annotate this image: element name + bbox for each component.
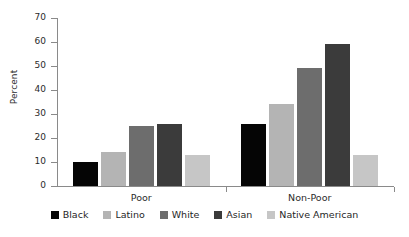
- legend-label: Native American: [279, 210, 358, 220]
- bars-container: [57, 18, 394, 186]
- legend-swatch-icon: [214, 211, 222, 219]
- bar-chart: Percent 010203040506070 PoorNon-Poor Bla…: [0, 0, 409, 237]
- legend-item: Native American: [267, 210, 358, 220]
- y-axis-tick-label: 30: [6, 109, 46, 118]
- bar: [157, 124, 182, 186]
- y-axis-tick-label: 20: [6, 133, 46, 142]
- bar: [185, 155, 210, 186]
- y-axis-tick-label: 40: [6, 85, 46, 94]
- y-axis-tick-label: 70: [6, 13, 46, 22]
- bar: [241, 124, 266, 186]
- legend-item: Latino: [103, 210, 144, 220]
- y-axis-tick-label: 60: [6, 37, 46, 46]
- bar: [101, 152, 126, 186]
- x-axis-tick: [394, 187, 395, 192]
- x-axis-tick: [226, 187, 227, 192]
- legend-swatch-icon: [160, 211, 168, 219]
- y-axis-tick-label: 50: [6, 61, 46, 70]
- legend-item: Black: [51, 210, 89, 220]
- x-axis-group-label: Poor: [91, 192, 191, 203]
- legend-label: Latino: [115, 210, 144, 220]
- bar: [129, 126, 154, 186]
- legend-item: White: [160, 210, 200, 220]
- legend-label: Black: [63, 210, 89, 220]
- legend-item: Asian: [214, 210, 252, 220]
- y-axis-tick-label: 0: [6, 181, 46, 190]
- bar: [353, 155, 378, 186]
- bar: [325, 44, 350, 186]
- legend-label: White: [172, 210, 200, 220]
- x-axis-group-label: Non-Poor: [260, 192, 360, 203]
- legend-swatch-icon: [103, 211, 111, 219]
- bar: [297, 68, 322, 186]
- bar: [73, 162, 98, 186]
- y-axis-tick-label: 10: [6, 157, 46, 166]
- y-axis-tick: [51, 186, 57, 187]
- legend-label: Asian: [226, 210, 252, 220]
- legend: BlackLatinoWhiteAsianNative American: [0, 210, 409, 220]
- legend-swatch-icon: [267, 211, 275, 219]
- legend-swatch-icon: [51, 211, 59, 219]
- bar: [269, 104, 294, 186]
